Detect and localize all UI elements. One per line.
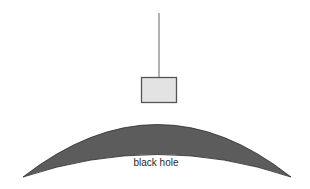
diagram-canvas: black hole <box>0 0 310 189</box>
black-hole-horizon <box>23 125 291 178</box>
suspended-box <box>142 78 177 103</box>
black-hole-label: black hole <box>106 157 206 168</box>
